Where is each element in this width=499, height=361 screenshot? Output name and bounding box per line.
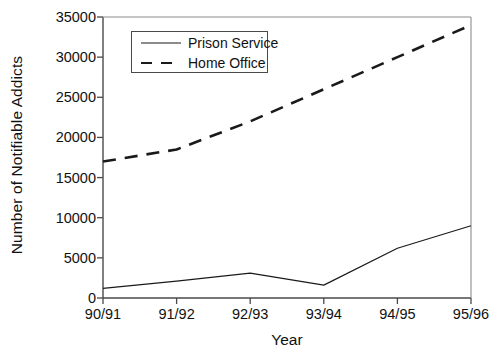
x-tick-label: 94/95	[379, 306, 415, 322]
series-line-prison-service	[103, 226, 471, 289]
x-tick-label: 92/93	[232, 306, 268, 322]
legend-item-prison-service: Prison Service	[132, 32, 267, 53]
line-chart: Number of Notifiable Addicts 05000100001…	[0, 0, 499, 361]
legend-item-home-office: Home Office	[132, 52, 267, 73]
legend-label-prison-service: Prison Service	[188, 35, 278, 51]
legend-label-home-office: Home Office	[188, 55, 266, 71]
x-tick-label: 90/91	[85, 306, 121, 322]
y-axis-tick-marks	[97, 17, 103, 298]
legend-solid-line-swatch	[138, 38, 184, 48]
chart-legend: Prison Service Home Office	[131, 31, 268, 73]
x-tick-label: 91/92	[158, 306, 194, 322]
x-axis-title: Year	[103, 331, 471, 349]
x-tick-label: 93/94	[306, 306, 342, 322]
x-tick-label: 95/96	[453, 306, 489, 322]
x-axis-tick-marks	[103, 298, 471, 304]
legend-dashed-line-swatch	[138, 58, 184, 68]
